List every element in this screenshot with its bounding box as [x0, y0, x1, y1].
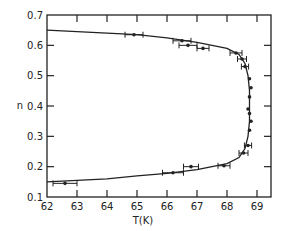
data-point: [125, 32, 143, 38]
x-tick-label: 69: [251, 201, 264, 212]
fit-curve: [47, 30, 250, 182]
data-point: [248, 128, 252, 132]
y-tick-label: 0.7: [27, 10, 43, 21]
data-point: [248, 112, 252, 116]
y-tick-label: 0.4: [27, 101, 43, 112]
chart-plot: 6263646566676869 0.10.20.30.40.50.60.7 T…: [0, 0, 284, 231]
y-axis-ticks: 0.10.20.30.40.50.60.7: [27, 10, 271, 203]
data-point: [246, 107, 250, 111]
x-tick-label: 63: [71, 201, 84, 212]
data-points: [53, 32, 253, 187]
x-tick-label: 65: [131, 201, 144, 212]
data-point: [179, 42, 197, 48]
y-tick-label: 0.5: [27, 70, 43, 81]
y-tick-label: 0.6: [27, 40, 43, 51]
x-tick-label: 68: [221, 201, 234, 212]
data-point: [249, 119, 253, 123]
y-axis-label: n: [17, 100, 23, 111]
data-point: [248, 95, 252, 99]
x-axis-ticks: 6263646566676869: [41, 15, 264, 212]
data-point: [163, 170, 184, 176]
data-point: [248, 77, 252, 81]
data-point: [249, 86, 253, 90]
x-tick-label: 62: [41, 201, 54, 212]
data-point: [197, 45, 209, 51]
x-tick-label: 67: [191, 201, 204, 212]
x-tick-label: 64: [101, 201, 114, 212]
y-tick-label: 0.2: [27, 161, 43, 172]
x-tick-label: 66: [161, 201, 174, 212]
plot-frame: [47, 15, 271, 197]
data-point: [184, 164, 199, 170]
y-tick-label: 0.1: [27, 192, 43, 203]
data-point: [238, 56, 247, 62]
y-tick-label: 0.3: [27, 131, 43, 142]
x-axis-label: T(K): [132, 215, 154, 226]
